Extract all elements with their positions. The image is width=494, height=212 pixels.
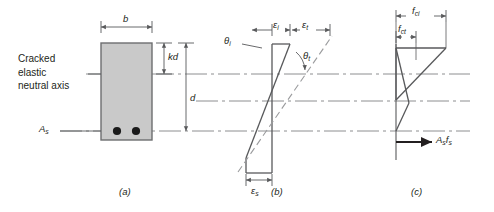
stress-profile-outline: [396, 48, 446, 131]
angle-initial-leader: [242, 44, 262, 48]
note-line-3: neutral axis: [18, 80, 69, 91]
figure-canvas: [0, 0, 494, 212]
rebar-dot: [113, 127, 121, 135]
label-angle-i: θi: [224, 35, 231, 48]
dimension-fci: [396, 10, 446, 22]
label-steel-area: As: [39, 123, 49, 136]
caption-b: (b): [271, 186, 283, 199]
label-stress-ct: fct: [398, 23, 406, 36]
dimension-strain-i: [252, 24, 290, 36]
figure-cracked-elastic-section: Cracked elastic neutral axis b kd d As (…: [0, 0, 494, 212]
label-strain-i: εi: [273, 19, 279, 32]
label-b: b: [123, 13, 128, 26]
label-stress-ci: fci: [412, 5, 420, 18]
dimension-d: [178, 43, 194, 131]
label-kd: kd: [168, 51, 178, 64]
caption-a: (a): [119, 186, 131, 199]
label-steel-force: Asfs: [436, 134, 452, 147]
note-line-1: Cracked: [18, 53, 55, 64]
concrete-section-rect: [101, 43, 152, 140]
label-strain-s: εs: [251, 185, 259, 198]
note-line-2: elastic: [18, 67, 46, 78]
strain-profile-outline: [246, 44, 290, 173]
dimension-strain-t: [292, 24, 330, 36]
label-angle-t: θt: [303, 50, 310, 63]
label-d: d: [190, 92, 195, 105]
caption-c: (c): [411, 186, 422, 199]
cracked-elastic-note: Cracked elastic neutral axis: [18, 52, 69, 93]
rebar-dot: [132, 127, 140, 135]
label-strain-t: εt: [302, 19, 308, 32]
dimension-strain-s: [246, 174, 272, 186]
